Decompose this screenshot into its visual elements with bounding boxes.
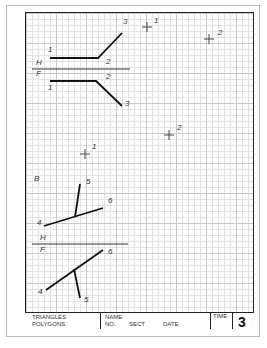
date-label: DATE — [163, 321, 179, 327]
point-4-h: 4 — [37, 218, 41, 227]
title-block-subject: TRIANGLES POLYGONS — [25, 313, 101, 329]
point-4-f: 4 — [38, 287, 42, 296]
point-1-f: 1 — [48, 83, 52, 92]
time-label: TIME — [213, 313, 227, 319]
label-B: B — [34, 174, 39, 183]
mark-2: 2 — [218, 28, 222, 37]
point-2-f: 2 — [106, 72, 110, 81]
title-block-time: TIME — [211, 313, 233, 329]
point-5-h: 5 — [86, 177, 90, 186]
mark-1: 1 — [154, 16, 158, 25]
mark-2b: 2 — [177, 123, 181, 132]
label-H-lower: H — [40, 233, 46, 242]
mark-1b: 1 — [92, 142, 96, 151]
point-6-f: 6 — [108, 247, 112, 256]
point-1-h: 1 — [48, 45, 52, 54]
sheet-number: 3 — [238, 314, 246, 330]
point-2-h: 2 — [106, 57, 110, 66]
name-label: NAME — [105, 314, 122, 320]
title-block-student: NAME NO. SECT DATE — [101, 313, 211, 329]
title-block-sheet: 3 — [233, 313, 254, 329]
no-label: NO. — [105, 321, 116, 327]
point-6-h: 6 — [108, 196, 112, 205]
title-block: TRIANGLES POLYGONS NAME NO. SECT DATE TI… — [25, 312, 254, 329]
point-3-f: 3 — [125, 99, 129, 108]
point-3-h: 3 — [123, 17, 127, 26]
sect-label: SECT — [129, 321, 145, 327]
label-F-lower: F — [40, 245, 45, 254]
subject-line-1: TRIANGLES — [32, 314, 66, 320]
label-F-upper: F — [36, 69, 41, 78]
label-H-upper: H — [36, 58, 42, 67]
subject-line-2: POLYGONS — [32, 321, 65, 327]
point-5-f: 5 — [84, 295, 88, 304]
